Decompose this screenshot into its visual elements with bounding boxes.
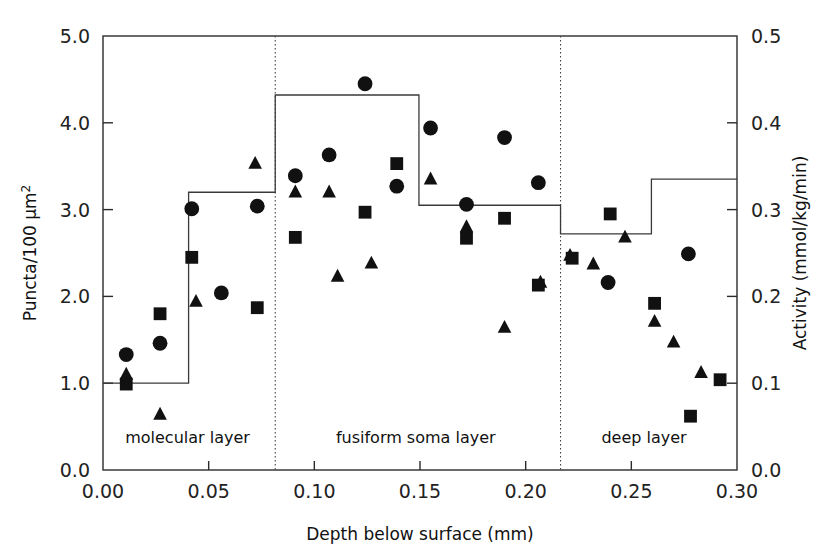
- x-tick-label-6: 0.30: [716, 480, 758, 502]
- triangle-marker: [586, 257, 600, 270]
- square-marker: [498, 212, 511, 225]
- triangle-marker: [189, 294, 203, 307]
- x-tick-label-0: 0.00: [82, 480, 124, 502]
- circle-marker: [358, 76, 373, 91]
- triangle-marker: [648, 314, 662, 327]
- square-marker: [359, 206, 372, 219]
- x-tick-label-3: 0.15: [399, 480, 441, 502]
- region-label-2: deep layer: [601, 428, 687, 447]
- y-tick-label-left-2: 2.0: [60, 285, 90, 307]
- square-marker: [604, 208, 617, 221]
- circle-marker: [250, 199, 265, 214]
- square-marker: [185, 251, 198, 264]
- region-label-1: fusiform soma layer: [336, 428, 496, 447]
- y-tick-label-right-2: 0.2: [751, 285, 781, 307]
- circle-marker: [459, 197, 474, 212]
- circle-marker: [214, 286, 229, 301]
- triangle-marker: [322, 185, 336, 198]
- y-tick-label-right-5: 0.5: [751, 25, 781, 47]
- triangle-marker: [289, 185, 303, 198]
- triangle-marker: [694, 365, 708, 378]
- circle-marker: [288, 168, 303, 183]
- y-tick-label-left-3: 3.0: [60, 199, 90, 221]
- square-marker: [460, 232, 473, 245]
- circle-marker: [681, 246, 696, 261]
- square-marker: [648, 297, 661, 310]
- circle-marker: [153, 336, 168, 351]
- x-axis-label: Depth below surface (mm): [306, 524, 533, 544]
- y-tick-label-right-3: 0.3: [751, 199, 781, 221]
- circle-marker: [119, 347, 134, 362]
- y-tick-label-left-5: 5.0: [60, 25, 90, 47]
- triangle-marker: [331, 269, 345, 282]
- y-tick-label-left-1: 1.0: [60, 372, 90, 394]
- triangle-marker: [365, 256, 379, 269]
- circle-marker: [184, 201, 199, 216]
- circle-marker: [531, 175, 546, 190]
- triangle-marker: [424, 172, 438, 185]
- triangle-marker: [119, 367, 133, 380]
- x-tick-label-2: 0.10: [293, 480, 335, 502]
- triangle-marker: [498, 320, 512, 333]
- square-marker: [289, 231, 302, 244]
- y-tick-label-right-1: 0.1: [751, 372, 781, 394]
- y-tick-label-left-4: 4.0: [60, 112, 90, 134]
- chart-svg: 0.000.050.100.150.200.250.300.01.02.03.0…: [0, 0, 830, 553]
- circle-marker: [497, 130, 512, 145]
- y-tick-label-left-0: 0.0: [60, 459, 90, 481]
- triangle-marker: [667, 335, 681, 348]
- y-axis-label-right: Activity (mmol/kg/min): [790, 156, 810, 351]
- y-tick-label-right-4: 0.4: [751, 112, 781, 134]
- triangle-marker: [618, 230, 632, 243]
- square-marker: [684, 410, 697, 423]
- x-tick-label-1: 0.05: [188, 480, 230, 502]
- square-marker: [390, 157, 403, 170]
- square-marker: [251, 301, 264, 314]
- activity-step-line: [103, 95, 737, 383]
- triangle-marker: [153, 407, 167, 420]
- square-marker: [154, 307, 167, 320]
- figure-container: 0.000.050.100.150.200.250.300.01.02.03.0…: [0, 0, 830, 553]
- circle-marker: [601, 275, 616, 290]
- square-marker: [714, 373, 727, 386]
- triangle-marker: [248, 156, 262, 169]
- y-axis-label-left: Puncta/100 μm2: [19, 185, 40, 322]
- circle-marker: [423, 121, 438, 136]
- x-tick-label-5: 0.25: [610, 480, 652, 502]
- triangle-marker: [460, 219, 474, 232]
- circle-marker: [389, 179, 404, 194]
- region-label-0: molecular layer: [125, 428, 250, 447]
- circle-marker: [322, 148, 337, 163]
- x-tick-label-4: 0.20: [505, 480, 547, 502]
- y-tick-label-right-0: 0.0: [751, 459, 781, 481]
